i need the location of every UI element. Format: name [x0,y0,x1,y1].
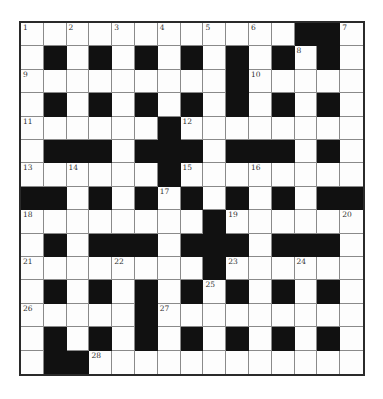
grid-cell[interactable] [340,327,363,350]
grid-cell[interactable] [226,163,249,186]
grid-cell[interactable] [340,234,363,257]
grid-cell[interactable] [249,304,272,327]
grid-cell[interactable] [249,257,272,280]
grid-cell[interactable] [112,163,135,186]
grid-cell[interactable] [340,117,363,140]
grid-cell[interactable] [340,257,363,280]
grid-cell[interactable] [89,257,112,280]
grid-cell[interactable] [272,257,295,280]
grid-cell[interactable]: 4 [158,23,181,46]
grid-cell[interactable] [158,257,181,280]
grid-cell[interactable] [295,327,318,350]
grid-cell[interactable] [249,351,272,374]
grid-cell[interactable] [317,257,340,280]
grid-cell[interactable]: 15 [181,163,204,186]
grid-cell[interactable] [21,280,44,303]
grid-cell[interactable] [317,70,340,93]
grid-cell[interactable] [181,210,204,233]
grid-cell[interactable] [44,23,67,46]
grid-cell[interactable] [295,163,318,186]
grid-cell[interactable] [89,210,112,233]
grid-cell[interactable]: 1 [21,23,44,46]
grid-cell[interactable] [44,117,67,140]
grid-cell[interactable]: 21 [21,257,44,280]
grid-cell[interactable] [340,70,363,93]
grid-cell[interactable] [295,140,318,163]
grid-cell[interactable] [340,46,363,69]
grid-cell[interactable] [272,117,295,140]
grid-cell[interactable] [203,327,226,350]
grid-cell[interactable] [158,234,181,257]
grid-cell[interactable] [340,163,363,186]
grid-cell[interactable]: 13 [21,163,44,186]
grid-cell[interactable] [340,351,363,374]
grid-cell[interactable] [203,187,226,210]
grid-cell[interactable] [67,93,90,116]
grid-cell[interactable] [340,93,363,116]
grid-cell[interactable] [249,187,272,210]
grid-cell[interactable] [21,46,44,69]
grid-cell[interactable] [21,140,44,163]
grid-cell[interactable]: 10 [249,70,272,93]
grid-cell[interactable] [21,327,44,350]
grid-cell[interactable] [203,70,226,93]
grid-cell[interactable] [112,93,135,116]
grid-cell[interactable] [89,70,112,93]
grid-cell[interactable]: 20 [340,210,363,233]
grid-cell[interactable] [112,140,135,163]
grid-cell[interactable] [112,187,135,210]
grid-cell[interactable] [295,280,318,303]
grid-cell[interactable] [67,187,90,210]
grid-cell[interactable]: 2 [67,23,90,46]
grid-cell[interactable] [44,163,67,186]
grid-cell[interactable] [181,70,204,93]
grid-cell[interactable] [249,93,272,116]
grid-cell[interactable] [44,70,67,93]
grid-cell[interactable] [158,210,181,233]
grid-cell[interactable] [317,163,340,186]
grid-cell[interactable] [44,210,67,233]
grid-cell[interactable] [203,93,226,116]
grid-cell[interactable] [67,327,90,350]
grid-cell[interactable] [181,304,204,327]
grid-cell[interactable]: 25 [203,280,226,303]
grid-cell[interactable]: 23 [226,257,249,280]
grid-cell[interactable] [67,210,90,233]
grid-cell[interactable] [181,257,204,280]
grid-cell[interactable] [158,327,181,350]
grid-cell[interactable] [89,163,112,186]
grid-cell[interactable]: 16 [249,163,272,186]
grid-cell[interactable]: 28 [89,351,112,374]
grid-cell[interactable] [249,234,272,257]
grid-cell[interactable] [112,351,135,374]
grid-cell[interactable] [226,304,249,327]
grid-cell[interactable] [272,304,295,327]
grid-cell[interactable]: 9 [21,70,44,93]
grid-cell[interactable] [21,351,44,374]
grid-cell[interactable] [226,117,249,140]
grid-cell[interactable] [135,351,158,374]
grid-cell[interactable] [135,257,158,280]
grid-cell[interactable] [112,210,135,233]
grid-cell[interactable] [272,210,295,233]
grid-cell[interactable] [67,70,90,93]
grid-cell[interactable] [135,117,158,140]
grid-cell[interactable] [158,280,181,303]
grid-cell[interactable]: 11 [21,117,44,140]
grid-cell[interactable] [67,257,90,280]
grid-cell[interactable]: 18 [21,210,44,233]
grid-cell[interactable] [181,351,204,374]
grid-cell[interactable]: 26 [21,304,44,327]
grid-cell[interactable] [272,23,295,46]
grid-cell[interactable] [89,304,112,327]
grid-cell[interactable] [317,117,340,140]
grid-cell[interactable]: 19 [226,210,249,233]
grid-cell[interactable] [112,46,135,69]
grid-cell[interactable] [181,23,204,46]
grid-cell[interactable] [112,117,135,140]
grid-cell[interactable] [67,280,90,303]
grid-cell[interactable] [158,351,181,374]
grid-cell[interactable]: 17 [158,187,181,210]
grid-cell[interactable] [203,46,226,69]
grid-cell[interactable] [249,117,272,140]
